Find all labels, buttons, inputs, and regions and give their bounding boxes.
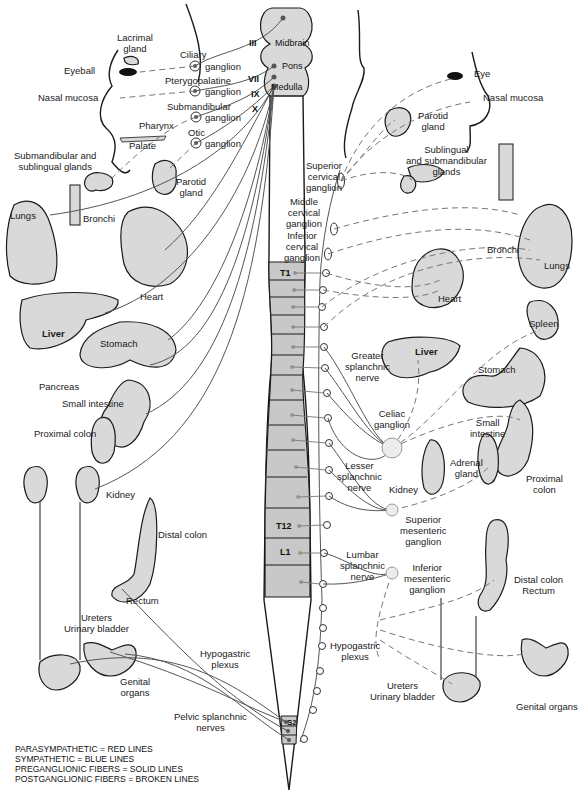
label-cn-vii: VII [248,74,259,84]
label-cn-x: X [252,104,258,114]
label-kidney-left: Kidney [106,489,135,500]
label-medulla: Medulla [271,82,303,92]
label-nasal-mucosa-right: Nasal mucosa [483,92,543,103]
label-cn-ix: IX [251,89,260,99]
label-lacrimal-gland: Lacrimal gland [117,32,153,54]
label-proximal-colon-left: Proximal colon [34,428,96,439]
legend: PARASYMPATHETIC = RED LINES SYMPATHETIC … [15,744,199,784]
label-hypogastric-plexus-right: Hypogastric plexus [330,640,380,662]
label-eyeball: Eyeball [64,65,95,76]
label-parotid-gland-right: Parotid gland [418,110,448,132]
label-heart-right: Heart [438,293,461,304]
label-pancreas: Pancreas [39,381,79,392]
legend-preganglionic: PREGANGLIONIC FIBERS = SOLID LINES [15,764,199,774]
right-lungs [518,204,572,288]
label-segment-s2: S2 [287,718,297,727]
label-palate: Palate [129,140,156,151]
label-adrenal-gland: Adrenal gland [450,457,483,479]
left-proximal-colon [91,417,115,463]
left-kidney-2 [76,467,99,503]
label-pons: Pons [282,61,303,71]
label-pharynx: Pharynx [139,120,174,131]
left-kidney-1 [24,467,47,503]
label-stomach-right: Stomach [478,364,516,375]
label-submandibular-ganglion: ganglion [205,112,241,123]
label-subm-subl-glands: Submandibular and sublingual glands [14,150,96,172]
left-genital-organs [84,643,136,676]
label-small-intestine-right: Small intestine [470,417,505,439]
label-liver-left: Liver [42,328,65,339]
label-otic: Otic [188,127,205,138]
label-cn-iii: III [249,38,257,48]
label-lumbar-splanchnic-nerve: Lumbar splanchnic nerve [340,549,385,582]
legend-sympathetic: SYMPATHETIC = BLUE LINES [15,754,199,764]
label-distal-colon-rectum: Distal colon Rectum [514,574,563,596]
right-kidney [422,440,444,494]
left-heart [121,207,188,286]
label-segment-t1: T1 [280,268,291,278]
label-inferior-mesenteric-ganglion: Inferior mesenteric ganglion [404,562,450,595]
label-nasal-mucosa-left: Nasal mucosa [38,92,98,103]
label-greater-splanchnic-nerve: Greater splanchnic nerve [345,350,390,383]
label-bronchi-left: Bronchi [83,213,115,224]
label-lungs-right: Lungs [544,260,570,271]
label-middle-cervical-ganglion: Middle cervical ganglion [286,196,322,229]
right-organs [382,204,572,702]
label-pterygopalatine-ganglion: ganglion [205,86,241,97]
legend-parasympathetic: PARASYMPATHETIC = RED LINES [15,744,199,754]
label-bronchi-right: Bronchi [487,244,519,255]
label-superior-mesenteric-ganglion: Superior mesenteric ganglion [400,514,446,547]
label-lesser-splanchnic-nerve: Lesser splanchnic nerve [337,460,382,493]
label-eye-right: Eye [474,68,490,79]
right-liver [382,337,460,378]
legend-postganglionic: POSTGANGLIONIC FIBERS = BROKEN LINES [15,774,199,784]
label-ciliary-ganglion: ganglion [205,61,241,72]
label-rectum-left: Rectum [126,595,159,606]
right-bladder [443,673,480,702]
label-genital-organs-left: Genital organs [120,676,150,698]
label-segment-t12: T12 [276,521,292,531]
label-inferior-cervical-ganglion: Inferior cervical ganglion [284,230,320,263]
label-superior-cervical-ganglion: Superior cervical ganglion [306,160,342,193]
inferior-mesenteric-ganglion [386,567,398,579]
label-liver-right: Liver [415,346,438,357]
label-hypogastric-plexus-left: Hypogastric plexus [200,648,250,670]
label-ureters-bladder-right: Ureters Urinary bladder [370,680,435,702]
left-subm-glands [85,173,113,191]
label-ciliary: Ciliary [180,49,206,60]
right-genital-organs [521,639,568,676]
superior-mesenteric-ganglion [386,504,398,516]
label-segment-l1: L1 [280,547,291,557]
label-proximal-colon-right: Proximal colon [526,473,563,495]
label-kidney-right: Kidney [389,484,418,495]
label-midbrain: Midbrain [275,38,310,48]
label-ureters-bladder-left: Ureters Urinary bladder [64,612,129,634]
label-small-intestine-left: Small intestine [62,398,124,409]
celiac-ganglion [382,438,402,458]
autonomic-nervous-system-diagram: .org { fill: #d9d9d9; stroke: #1a1a1a; s… [0,0,584,799]
label-submandibular: Submandibular [167,101,231,112]
label-heart-left: Heart [140,291,163,302]
left-bladder [39,655,80,690]
label-genital-organs-right: Genital organs [516,701,578,712]
label-pelvic-splanchnic-nerves: Pelvic splanchnic nerves [174,711,247,733]
label-celiac-ganglion: Celiac ganglion [374,408,410,430]
label-stomach-left: Stomach [100,338,138,349]
label-otic-ganglion: ganglion [205,138,241,149]
label-parotid-gland-left: Parotid gland [176,176,206,198]
label-distal-colon-left: Distal colon [158,529,207,540]
label-subl-subm-glands: Sublingual and submandibular glands [406,144,487,177]
right-distal-colon [478,520,508,611]
label-pterygopalatine: Pterygopalatine [165,75,231,86]
right-stomach [463,348,545,407]
left-distal-colon [112,498,157,602]
label-lungs-left: Lungs [10,210,36,221]
label-spleen: Spleen [529,318,559,329]
